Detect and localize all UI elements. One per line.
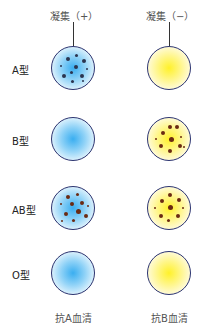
clump-icon	[74, 65, 78, 69]
clump-icon	[167, 219, 170, 222]
clump-icon	[84, 214, 88, 218]
clump-icon	[168, 205, 173, 210]
clump-icon	[70, 71, 73, 74]
leader-line-positive	[73, 22, 74, 46]
clump-icon	[60, 203, 62, 205]
clump-icon	[178, 144, 182, 148]
clump-icon	[75, 54, 78, 57]
clump-icon	[61, 220, 63, 222]
clump-icon	[168, 149, 172, 153]
clump-icon	[177, 198, 181, 202]
clump-icon	[180, 136, 182, 138]
clump-icon	[60, 65, 62, 67]
clump-icon	[168, 125, 172, 129]
clump-icon	[86, 68, 88, 70]
clump-icon	[72, 219, 75, 222]
clump-icon	[82, 80, 84, 82]
dish-o-anti-b-clear	[147, 251, 191, 295]
clump-icon	[154, 207, 156, 209]
footer-anti-a-serum: 抗A血清	[55, 310, 92, 325]
dish-ab-anti-b-agglutinated	[147, 186, 191, 230]
row-label-o: O型	[12, 267, 30, 282]
leader-line-negative	[169, 22, 170, 46]
clump-icon	[70, 202, 74, 206]
clump-icon	[182, 207, 184, 209]
clump-icon	[62, 74, 66, 78]
footer-anti-b-serum: 抗B血清	[151, 310, 188, 325]
clump-icon	[76, 193, 79, 196]
clump-icon	[64, 212, 68, 216]
clump-icon	[87, 205, 89, 207]
clump-icon	[183, 146, 185, 148]
clump-icon	[76, 209, 81, 214]
clump-icon	[80, 201, 84, 205]
dish-a-anti-a-agglutinated	[51, 46, 95, 90]
clump-icon	[176, 214, 180, 218]
row-label-b: B型	[12, 133, 29, 148]
clump-icon	[160, 199, 164, 203]
row-label-a: A型	[12, 62, 29, 77]
dish-b-anti-a-clear	[51, 117, 95, 161]
dish-b-anti-b-agglutinated	[147, 117, 191, 161]
clump-icon	[66, 57, 70, 61]
dish-ab-anti-a-agglutinated	[51, 186, 95, 230]
clump-icon	[82, 59, 86, 63]
header-agglutination-negative: 凝集（−）	[146, 8, 194, 23]
clump-icon	[71, 80, 74, 83]
clump-icon	[168, 193, 172, 197]
clump-icon	[159, 144, 163, 148]
clump-icon	[80, 74, 84, 78]
dish-a-anti-b-clear	[147, 46, 191, 90]
clump-icon	[155, 138, 157, 140]
dish-o-anti-a-clear	[51, 251, 95, 295]
header-agglutination-positive: 凝集（+）	[50, 8, 98, 23]
clump-icon	[159, 214, 163, 218]
clump-icon	[161, 131, 165, 135]
row-label-ab: AB型	[12, 202, 36, 217]
clump-icon	[66, 195, 70, 199]
clump-icon	[175, 125, 179, 129]
clump-icon	[169, 137, 174, 142]
